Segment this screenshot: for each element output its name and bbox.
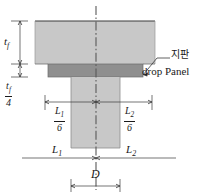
fraction-numerator: L1 bbox=[54, 106, 65, 120]
callout-korean-label: 지판 bbox=[171, 50, 189, 60]
dimension-tf-quarter bbox=[11, 64, 28, 77]
dimension-tf bbox=[11, 21, 28, 64]
fraction-denominator: 6 bbox=[56, 123, 63, 134]
label-right-span: L2 bbox=[126, 144, 136, 158]
label-right-sixth-span: L2 6 bbox=[124, 106, 135, 133]
callout-drop-panel-label: drop Panel bbox=[142, 66, 189, 77]
label-left-sixth-span: L1 6 bbox=[54, 106, 65, 133]
diagram-canvas: tf tf 4 L1 6 L2 6 L1 L2 D 지판 drop Panel bbox=[0, 0, 197, 196]
fraction-denominator: 4 bbox=[5, 98, 12, 109]
label-slab-thickness: tf bbox=[4, 36, 9, 50]
label-left-span: L1 bbox=[52, 144, 62, 158]
label-column-diameter: D bbox=[91, 168, 100, 180]
fraction-numerator: L2 bbox=[124, 106, 135, 120]
label-drop-panel-thickness: tf 4 bbox=[5, 81, 12, 108]
drop-panel-shape bbox=[35, 64, 155, 77]
slab-shape bbox=[35, 21, 155, 64]
fraction-denominator: 6 bbox=[126, 123, 133, 134]
fraction-numerator: tf bbox=[5, 81, 12, 95]
dimension-spans bbox=[22, 156, 176, 160]
